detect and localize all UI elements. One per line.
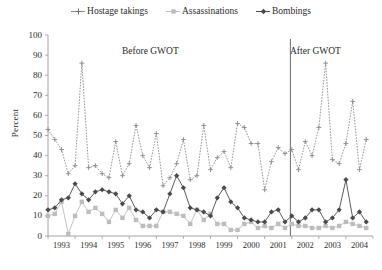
x-tick-label: 2004 bbox=[342, 241, 376, 250]
series-hostage-takings bbox=[46, 61, 369, 192]
y-tick-label: 20 bbox=[16, 191, 42, 200]
y-tick-label: 40 bbox=[16, 151, 42, 160]
y-tick-label: 30 bbox=[16, 171, 42, 180]
series-assassinations bbox=[46, 200, 369, 237]
y-tick-label: 80 bbox=[16, 71, 42, 80]
chart-plot-area bbox=[0, 0, 382, 270]
y-tick-label: 0 bbox=[16, 232, 42, 241]
y-tick-label: 70 bbox=[16, 91, 42, 100]
y-tick-label: 60 bbox=[16, 111, 42, 120]
y-tick-label: 10 bbox=[16, 211, 42, 220]
y-tick-label: 90 bbox=[16, 51, 42, 60]
y-tick-label: 100 bbox=[16, 31, 42, 40]
chart-root: Hostage takings Assassinations Bombings … bbox=[0, 0, 382, 270]
y-tick-label: 50 bbox=[16, 131, 42, 140]
